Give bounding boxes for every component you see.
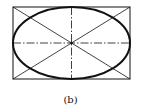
- center-point: [70, 42, 72, 44]
- figure-caption: (b): [0, 94, 141, 105]
